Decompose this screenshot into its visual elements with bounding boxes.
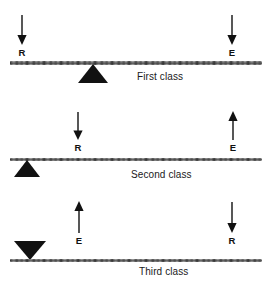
force-label-effort: E <box>220 142 246 153</box>
force-label-resistance: R <box>65 142 91 153</box>
force-effort-third-class: E <box>66 201 92 246</box>
lever-classes-diagram: R E First class R <box>0 0 269 287</box>
lever-bar-second-class <box>10 158 262 161</box>
lever-bar-third-class <box>10 259 262 262</box>
fulcrum-first-class <box>78 64 108 83</box>
force-resistance-third-class: R <box>219 201 245 246</box>
arrow-down-icon <box>9 14 35 46</box>
caption-second-class: Second class <box>131 169 192 181</box>
arrow-down-icon <box>219 201 245 234</box>
arrow-up-icon <box>66 201 92 234</box>
force-label-resistance: R <box>219 235 245 246</box>
force-label-effort: E <box>219 47 245 58</box>
force-resistance-first-class: R <box>9 14 35 58</box>
force-effort-second-class: E <box>220 111 246 153</box>
arrow-down-icon <box>65 111 91 141</box>
arrow-down-icon <box>219 14 245 46</box>
force-effort-first-class: E <box>219 14 245 58</box>
caption-third-class: Third class <box>139 266 188 278</box>
arrow-up-icon <box>220 111 246 141</box>
caption-first-class: First class <box>137 71 183 83</box>
force-resistance-second-class: R <box>65 111 91 153</box>
lever-second-class: R E Second class <box>0 95 269 190</box>
lever-first-class: R E First class <box>0 0 269 95</box>
force-label-effort: E <box>66 235 92 246</box>
lever-bar-first-class <box>10 61 262 65</box>
fulcrum-second-class <box>14 160 40 177</box>
lever-third-class: E R Third class <box>0 190 269 287</box>
force-label-resistance: R <box>9 47 35 58</box>
fulcrum-third-class <box>14 241 46 260</box>
